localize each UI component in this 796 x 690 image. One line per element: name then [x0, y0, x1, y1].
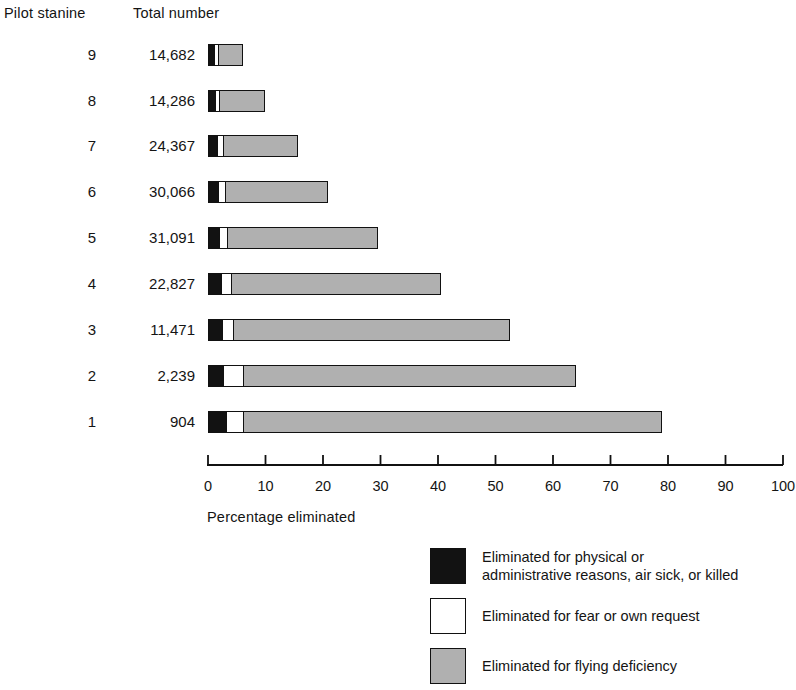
x-tick-label: 90	[706, 478, 746, 494]
x-tick-label: 70	[591, 478, 631, 494]
legend-label: Eliminated for physical or administrativ…	[482, 548, 738, 584]
x-tick-label: 100	[763, 478, 796, 494]
x-tick-label: 40	[418, 478, 458, 494]
legend-label: Eliminated for fear or own request	[482, 607, 700, 625]
x-axis-title: Percentage eliminated	[207, 509, 356, 525]
x-tick-label: 10	[246, 478, 286, 494]
legend-swatch-white	[430, 598, 466, 634]
x-tick-label: 80	[648, 478, 688, 494]
legend-swatch-gray	[430, 648, 466, 684]
x-tick-label: 60	[533, 478, 573, 494]
legend-item: Eliminated for physical or administrativ…	[430, 548, 790, 584]
legend-item: Eliminated for flying deficiency	[430, 648, 790, 684]
x-tick-label: 0	[188, 478, 228, 494]
x-tick-label: 30	[361, 478, 401, 494]
legend-label: Eliminated for flying deficiency	[482, 657, 677, 675]
legend-swatch-black	[430, 548, 466, 584]
x-tick-label: 50	[476, 478, 516, 494]
chart-legend: Eliminated for physical or administrativ…	[430, 548, 790, 690]
x-tick-label: 20	[303, 478, 343, 494]
legend-item: Eliminated for fear or own request	[430, 598, 790, 634]
pilot-stanine-elimination-chart: Pilot stanine Total number 914,682814,28…	[0, 0, 796, 690]
